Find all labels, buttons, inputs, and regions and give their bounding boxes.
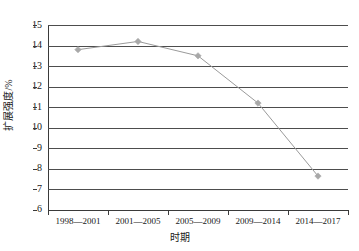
- y-tick-label-14: 14: [16, 40, 42, 50]
- x-tick-label-2009-2014: 2009—2014: [225, 216, 291, 227]
- y-tick-mark-9: [33, 148, 37, 149]
- data-point-marker: [75, 46, 81, 52]
- y-tick-mark-10: [33, 128, 37, 129]
- y-tick-label-6: 6: [16, 204, 42, 214]
- y-tick-label-15: 15: [16, 20, 42, 30]
- y-tick-label-9: 9: [16, 143, 42, 153]
- x-axis-title: 时期: [0, 232, 359, 244]
- plot-area: [48, 25, 348, 210]
- x-tick-mark-1: [108, 210, 109, 215]
- y-tick-label-7: 7: [16, 184, 42, 194]
- gridline-6-baseline: [48, 210, 348, 211]
- x-tick-mark-5: [348, 210, 349, 215]
- line-chart-figure: 扩展强度/% 15 14 13 12 11 10 9 8 7 6: [0, 0, 359, 251]
- y-axis-title-text: 扩展强度/%: [4, 79, 14, 130]
- x-tick-label-2005-2009: 2005—2009: [165, 216, 231, 227]
- x-tick-mark-0: [48, 210, 49, 215]
- x-tick-mark-3: [228, 210, 229, 215]
- y-tick-mark-14: [33, 46, 37, 47]
- data-series-layer: [48, 25, 348, 210]
- y-tick-mark-7: [33, 189, 37, 190]
- x-tick-label-1998-2001: 1998—2001: [45, 216, 111, 227]
- y-tick-mark-12: [33, 87, 37, 88]
- y-tick-mark-15: [33, 25, 37, 26]
- y-tick-mark-11: [33, 107, 37, 108]
- y-tick-label-8: 8: [16, 163, 42, 173]
- y-tick-mark-8: [33, 169, 37, 170]
- x-tick-label-2001-2005: 2001—2005: [105, 216, 171, 227]
- y-tick-label-13: 13: [16, 61, 42, 71]
- y-tick-label-10: 10: [16, 122, 42, 132]
- series-line: [78, 41, 318, 176]
- x-tick-mark-4: [288, 210, 289, 215]
- x-tick-mark-2: [168, 210, 169, 215]
- data-point-marker: [135, 38, 141, 44]
- y-tick-mark-6: [33, 210, 37, 211]
- y-tick-label-11: 11: [16, 102, 42, 112]
- y-tick-mark-13: [33, 66, 37, 67]
- x-tick-label-2014-2017: 2014—2017: [285, 216, 351, 227]
- y-tick-label-12: 12: [16, 81, 42, 91]
